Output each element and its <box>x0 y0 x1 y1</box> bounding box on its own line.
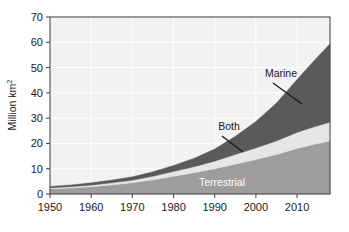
y-tick-label: 0 <box>37 188 43 200</box>
x-tick-label: 2010 <box>285 201 309 213</box>
y-axis-title-superscript: 2 <box>5 80 14 84</box>
x-tick-label: 1960 <box>79 201 103 213</box>
x-axis-tick-marks <box>50 194 297 198</box>
x-tick-label: 1980 <box>161 201 185 213</box>
y-tick-label: 10 <box>31 163 43 175</box>
y-axis-tick-marks <box>46 17 50 194</box>
y-axis-title-text: Million km <box>6 83 18 130</box>
y-axis-title: Million km2 <box>5 80 18 131</box>
y-tick-label: 30 <box>31 112 43 124</box>
x-axis-tick-labels: 1950196019701980199020002010 <box>38 201 310 213</box>
y-tick-label: 40 <box>31 87 43 99</box>
protected-area-growth-chart: 010203040506070 195019601970198019902000… <box>0 0 349 232</box>
y-tick-label: 50 <box>31 62 43 74</box>
chart-figure: 010203040506070 195019601970198019902000… <box>0 0 349 232</box>
y-tick-label: 60 <box>31 36 43 48</box>
x-tick-label: 2000 <box>244 201 268 213</box>
x-tick-label: 1970 <box>120 201 144 213</box>
y-axis-tick-labels: 010203040506070 <box>31 11 43 200</box>
annotation-terrestrial-label: Terrestrial <box>199 176 245 188</box>
annotation-both-label: Both <box>218 120 240 132</box>
x-tick-label: 1990 <box>202 201 226 213</box>
y-tick-label: 20 <box>31 137 43 149</box>
y-tick-label: 70 <box>31 11 43 23</box>
annotation-marine-label: Marine <box>265 67 297 79</box>
x-tick-label: 1950 <box>38 201 62 213</box>
